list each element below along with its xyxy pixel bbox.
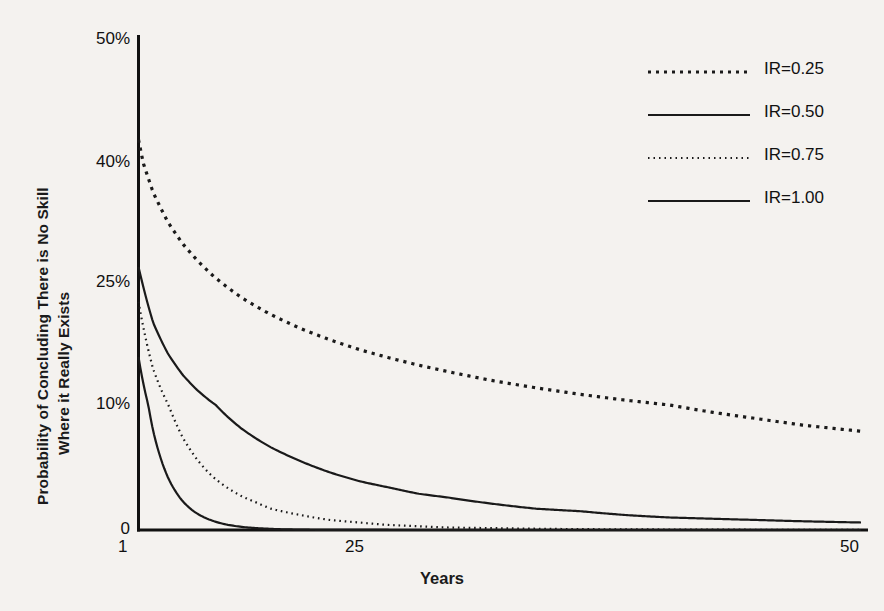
legend-swatch-solid-100: [648, 198, 750, 204]
legend-label-ir-025: IR=0.25: [764, 59, 824, 79]
legend-swatch-fine-dotted: [648, 155, 750, 161]
curve-ir-0-75: [139, 302, 862, 530]
legend-item-ir-100: IR=1.00: [648, 187, 884, 230]
legend-label-ir-100: IR=1.00: [764, 188, 824, 208]
chart-figure: Probability of Concluding There is No Sk…: [0, 0, 884, 611]
chart-legend: IR=0.25 IR=0.50 IR=0.75 IR=1.00: [648, 58, 884, 230]
legend-swatch-solid-050: [648, 112, 750, 118]
legend-item-ir-025: IR=0.25: [648, 58, 884, 101]
legend-item-ir-075: IR=0.75: [648, 144, 884, 187]
legend-label-ir-075: IR=0.75: [764, 145, 824, 165]
curve-ir-0-50: [139, 267, 862, 523]
legend-swatch-dotted: [648, 69, 750, 75]
legend-item-ir-050: IR=0.50: [648, 101, 884, 144]
legend-label-ir-050: IR=0.50: [764, 102, 824, 122]
